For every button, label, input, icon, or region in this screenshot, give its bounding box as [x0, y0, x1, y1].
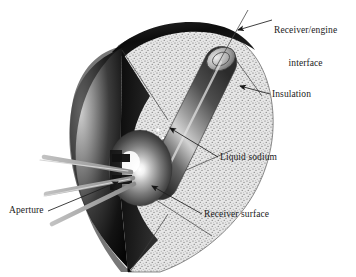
label-receiver-engine-interface: Receiver/engine interface	[274, 3, 337, 91]
label-receiver-engine-line2: interface	[274, 58, 337, 69]
label-aperture: Aperture	[9, 205, 44, 216]
solar-receiver-diagram: Receiver/engine interface Insulation Liq…	[0, 0, 356, 277]
label-receiver-engine-line1: Receiver/engine	[274, 25, 337, 36]
label-receiver-surface: Receiver surface	[204, 209, 269, 220]
leader-receiver-engine	[238, 20, 272, 30]
label-liquid-sodium: Liquid sodium	[220, 152, 277, 163]
label-insulation: Insulation	[272, 89, 311, 100]
